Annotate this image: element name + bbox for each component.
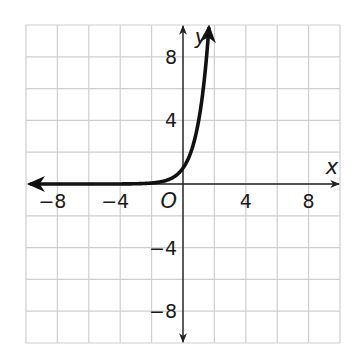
x-tick-label: 8 [303, 190, 315, 212]
y-axis-label: y [194, 25, 208, 49]
y-tick-label: 8 [165, 46, 177, 68]
x-axis-label: x [325, 155, 339, 179]
x-tick-label: −8 [38, 190, 66, 212]
y-tick-label: −4 [149, 237, 177, 259]
tick-labels: −8−44884−4−8Oxy [38, 25, 338, 322]
y-tick-label: 4 [165, 109, 177, 131]
x-tick-label: 4 [240, 190, 252, 212]
exponential-graph: −8−44884−4−8Oxy [0, 0, 356, 356]
coordinate-plane: −8−44884−4−8Oxy [0, 0, 356, 356]
x-tick-label: −4 [101, 190, 129, 212]
origin-label: O [160, 189, 177, 213]
y-tick-label: −8 [149, 300, 177, 322]
